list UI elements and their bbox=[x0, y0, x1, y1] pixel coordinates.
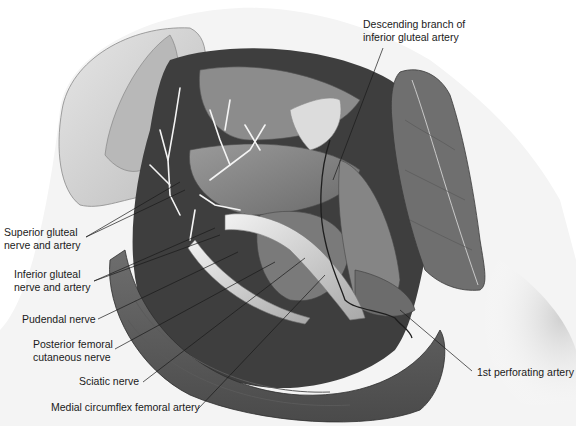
label-line: Pudendal nerve bbox=[22, 313, 96, 326]
anatomy-figure: Descending branch of inferior gluteal ar… bbox=[0, 0, 576, 426]
label-line: Sciatic nerve bbox=[79, 375, 139, 388]
label-line: Superior gluteal bbox=[4, 226, 84, 239]
label-line: Posterior femoral bbox=[33, 338, 113, 351]
label-line: Inferior gluteal bbox=[14, 268, 90, 281]
label-medial-circumflex-femoral-artery: Medial circumflex femoral artery bbox=[51, 401, 200, 414]
label-line: Medial circumflex femoral artery bbox=[51, 401, 200, 414]
label-posterior-femoral-cutaneous-nerve: Posterior femoral cutaneous nerve bbox=[33, 338, 113, 364]
label-sciatic-nerve: Sciatic nerve bbox=[79, 375, 139, 388]
label-pudendal-nerve: Pudendal nerve bbox=[22, 313, 96, 326]
label-superior-gluteal-nerve-and-artery: Superior gluteal nerve and artery bbox=[4, 226, 84, 252]
label-inferior-gluteal-nerve-and-artery: Inferior gluteal nerve and artery bbox=[14, 268, 90, 294]
label-descending-branch-inferior-gluteal-artery: Descending branch of inferior gluteal ar… bbox=[363, 18, 465, 44]
label-line: inferior gluteal artery bbox=[363, 31, 465, 44]
label-line: nerve and artery bbox=[4, 239, 84, 252]
label-line: Descending branch of bbox=[363, 18, 465, 31]
label-line: nerve and artery bbox=[14, 281, 90, 294]
label-line: cutaneous nerve bbox=[33, 351, 113, 364]
label-first-perforating-artery: 1st perforating artery bbox=[477, 366, 574, 379]
label-line: 1st perforating artery bbox=[477, 366, 574, 379]
